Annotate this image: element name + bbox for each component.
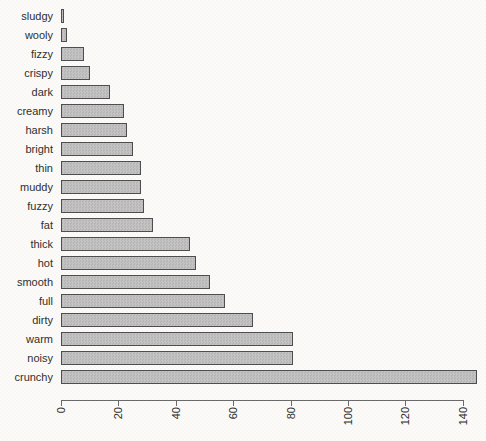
bar-wooly — [61, 28, 67, 42]
category-label-dark: dark — [0, 85, 53, 99]
x-axis-tick — [118, 401, 119, 406]
x-axis-tick — [348, 401, 349, 406]
category-label-thin: thin — [0, 161, 53, 175]
category-label-bright: bright — [0, 142, 53, 156]
bar-fat — [61, 218, 153, 232]
x-axis-tick-label: 20 — [112, 407, 124, 437]
bar-thick — [61, 237, 190, 251]
x-axis-tick — [291, 401, 292, 406]
category-label-fat: fat — [0, 218, 53, 232]
category-label-sludgy: sludgy — [0, 9, 53, 23]
bar-full — [61, 294, 225, 308]
bar-hot — [61, 256, 196, 270]
x-axis-tick-label: 120 — [399, 407, 411, 437]
bar-fuzzy — [61, 199, 144, 213]
x-axis-tick-label: 140 — [457, 407, 469, 437]
x-axis-tick — [463, 401, 464, 406]
bar-crunchy — [61, 370, 477, 384]
bar-dark — [61, 85, 110, 99]
category-label-thick: thick — [0, 237, 53, 251]
bar-warm — [61, 332, 293, 346]
x-axis-tick — [61, 401, 62, 406]
x-axis-tick-label: 40 — [170, 407, 182, 437]
category-label-fizzy: fizzy — [0, 47, 53, 61]
bar-noisy — [61, 351, 293, 365]
bar-dirty — [61, 313, 253, 327]
category-label-smooth: smooth — [0, 275, 53, 289]
bar-fizzy — [61, 47, 84, 61]
x-axis-tick — [176, 401, 177, 406]
x-axis-tick-label: 60 — [227, 407, 239, 437]
category-label-crispy: crispy — [0, 66, 53, 80]
bar-bright — [61, 142, 133, 156]
x-axis-line — [61, 400, 464, 401]
bar-muddy — [61, 180, 141, 194]
category-label-noisy: noisy — [0, 351, 53, 365]
category-label-creamy: creamy — [0, 104, 53, 118]
category-label-warm: warm — [0, 332, 53, 346]
category-label-hot: hot — [0, 256, 53, 270]
bar-creamy — [61, 104, 124, 118]
category-label-crunchy: crunchy — [0, 370, 53, 384]
category-label-full: full — [0, 294, 53, 308]
category-label-harsh: harsh — [0, 123, 53, 137]
x-axis-tick — [233, 401, 234, 406]
bar-thin — [61, 161, 141, 175]
bar-crispy — [61, 66, 90, 80]
x-axis-tick-label: 0 — [55, 407, 67, 437]
x-axis-tick — [405, 401, 406, 406]
bar-sludgy — [61, 9, 64, 23]
x-axis-tick-label: 100 — [342, 407, 354, 437]
category-label-fuzzy: fuzzy — [0, 199, 53, 213]
bar-smooth — [61, 275, 210, 289]
category-label-dirty: dirty — [0, 313, 53, 327]
category-label-muddy: muddy — [0, 180, 53, 194]
x-axis-tick-label: 80 — [285, 407, 297, 437]
barplot-figure: sludgywoolyfizzycrispydarkcreamyharshbri… — [0, 0, 486, 441]
bar-harsh — [61, 123, 127, 137]
category-label-wooly: wooly — [0, 28, 53, 42]
